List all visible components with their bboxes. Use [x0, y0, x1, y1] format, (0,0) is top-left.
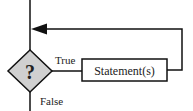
true-label: True — [55, 54, 75, 66]
decision-symbol: ? — [25, 61, 35, 83]
arrowhead-icon — [31, 24, 47, 35]
false-label: False — [40, 95, 63, 107]
statement-label: Statement(s) — [94, 64, 155, 78]
while-loop-flowchart: ? Statement(s) True False — [0, 0, 193, 111]
